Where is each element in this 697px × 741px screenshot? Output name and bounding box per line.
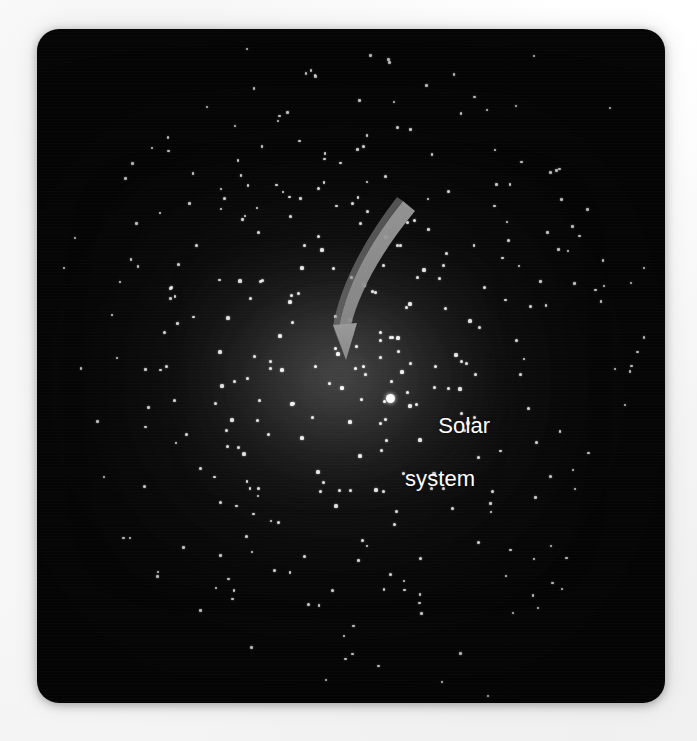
star-point: [219, 501, 222, 504]
star-point: [643, 267, 646, 270]
star-point: [459, 652, 462, 655]
star-point: [226, 445, 229, 448]
star-point: [173, 399, 176, 402]
star-point: [195, 244, 198, 247]
star-point: [445, 252, 448, 255]
star-point: [509, 183, 512, 186]
star-point: [384, 235, 387, 238]
star-point: [518, 265, 521, 268]
star-point: [334, 315, 337, 318]
star-point: [351, 653, 354, 656]
star-point: [495, 183, 498, 186]
star-point: [357, 196, 360, 199]
star-point: [419, 557, 422, 560]
star-point: [529, 305, 532, 308]
star-point: [297, 292, 300, 295]
star-point: [220, 188, 223, 191]
star-point: [192, 172, 195, 175]
star-field: [37, 29, 665, 703]
star-point: [249, 297, 252, 300]
star-point: [520, 161, 523, 164]
star-point: [316, 470, 319, 473]
star-point: [261, 279, 264, 282]
star-point: [374, 291, 377, 294]
star-point: [379, 422, 382, 425]
star-point: [223, 197, 226, 200]
star-point: [338, 489, 341, 492]
star-point: [250, 646, 253, 649]
star-point: [213, 476, 216, 479]
star-point: [362, 145, 365, 148]
star-point: [225, 429, 228, 432]
star-point: [523, 358, 526, 361]
star-point: [165, 365, 168, 368]
star-point: [399, 244, 402, 247]
star-point: [143, 485, 146, 488]
star-point: [491, 490, 494, 493]
star-point: [527, 407, 530, 410]
star-point: [214, 402, 217, 405]
star-point: [573, 282, 576, 285]
star-point: [460, 360, 463, 363]
star-point: [291, 321, 294, 324]
star-point: [515, 105, 518, 108]
star-point: [384, 418, 387, 421]
star-point: [382, 490, 385, 493]
star-point: [453, 73, 456, 76]
star-point: [441, 681, 444, 684]
star-point: [219, 554, 222, 557]
star-point: [586, 208, 589, 211]
star-point: [322, 481, 325, 484]
star-point: [442, 264, 445, 267]
star-point: [416, 276, 419, 279]
star-point: [252, 513, 255, 516]
star-point: [494, 149, 497, 152]
star-point: [124, 177, 127, 180]
star-point: [630, 282, 633, 285]
star-point: [350, 276, 353, 279]
star-point: [603, 285, 606, 288]
star-point: [602, 259, 605, 262]
star-point: [241, 218, 244, 221]
star-point: [235, 505, 238, 508]
star-point: [257, 487, 260, 490]
star-point: [571, 225, 574, 228]
star-point: [247, 184, 250, 187]
star-point: [413, 219, 416, 222]
star-point: [578, 235, 581, 238]
star-point: [129, 537, 132, 540]
star-point: [533, 558, 536, 561]
star-point: [393, 101, 396, 104]
star-point: [408, 302, 411, 305]
solar-system-label-line1: Solar: [438, 413, 490, 438]
star-point: [366, 545, 369, 548]
star-point: [157, 571, 160, 574]
star-point: [323, 181, 326, 184]
star-point: [385, 439, 388, 442]
star-point: [167, 136, 170, 139]
star-point: [355, 345, 358, 348]
star-point: [177, 263, 180, 266]
star-point: [361, 539, 364, 542]
star-point: [352, 625, 355, 628]
star-point: [174, 295, 177, 298]
star-point: [320, 248, 323, 251]
star-point: [318, 604, 321, 607]
star-point: [507, 239, 510, 242]
star-point: [242, 452, 245, 455]
star-point: [348, 420, 351, 423]
star-point: [572, 469, 575, 472]
star-point: [215, 587, 218, 590]
star-point: [515, 339, 518, 342]
star-point: [163, 331, 166, 334]
star-point: [256, 207, 259, 210]
star-point: [103, 476, 106, 479]
star-point: [532, 594, 535, 597]
star-point: [478, 326, 481, 329]
star-point: [614, 368, 617, 371]
star-point: [122, 537, 125, 540]
star-point: [460, 112, 463, 115]
star-point: [643, 336, 646, 339]
star-point: [267, 433, 270, 436]
solar-system-label-line2: system: [401, 466, 490, 493]
